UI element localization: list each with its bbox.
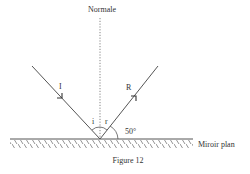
reflection-diagram: Normale I R i r 50° Miroir plan Figure 1… — [0, 0, 250, 174]
angle-i-arc — [92, 127, 100, 130]
reflected-label: R — [126, 83, 132, 92]
angle-50-arc — [110, 126, 118, 139]
diagram-svg: Normale I R i r 50° Miroir plan Figure 1… — [0, 0, 250, 174]
incident-label: I — [59, 82, 62, 91]
angle-value-label: 50° — [125, 127, 136, 136]
figure-caption: Figure 12 — [113, 156, 144, 165]
incident-ray — [32, 66, 100, 139]
mirror-label: Miroir plan — [198, 140, 235, 149]
angle-r-label: r — [105, 117, 108, 126]
normal-label: Normale — [88, 5, 116, 14]
angle-i-label: i — [92, 117, 95, 126]
mirror-hatching — [10, 140, 193, 148]
angle-r-arc — [100, 127, 107, 130]
